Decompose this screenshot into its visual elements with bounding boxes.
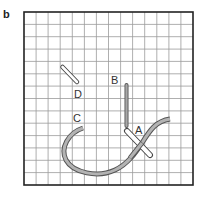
needle-d: [63, 67, 78, 82]
label-c: C: [73, 112, 81, 124]
grid: [24, 12, 193, 185]
stitch-diagram: A B C D: [0, 0, 205, 200]
thread-c: [64, 119, 170, 174]
label-a: A: [135, 124, 143, 136]
label-b: B: [111, 74, 118, 86]
label-d: D: [74, 88, 82, 100]
